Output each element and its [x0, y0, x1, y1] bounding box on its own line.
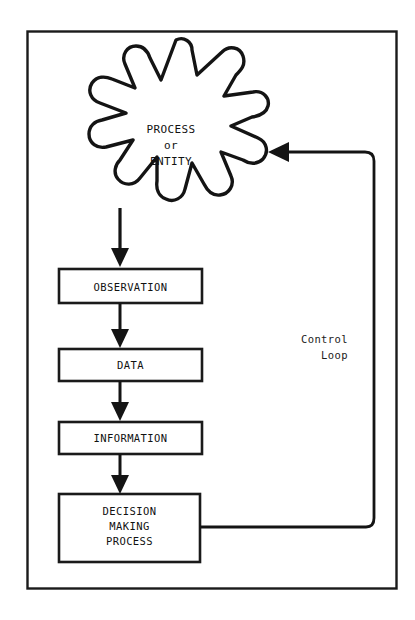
control-loop-arrowhead [268, 142, 289, 162]
arrow-data-to-information-head [111, 402, 129, 421]
box-information[interactable] [59, 422, 202, 454]
box-decision-making-process[interactable] [59, 494, 200, 562]
arrow-information-to-decision-head [111, 475, 129, 494]
control-loop-label: Control Loop [248, 332, 348, 364]
arrow-observation-to-data-head [111, 329, 129, 348]
process-entity-burst-shape [89, 39, 268, 201]
box-observation[interactable] [59, 269, 202, 303]
box-data[interactable] [59, 349, 202, 381]
arrow-burst-to-observation-head [111, 248, 129, 267]
diagram-vector-layer [0, 0, 415, 620]
diagram-canvas: PROCESS or ENTITY OBSERVATION DATA INFOR… [0, 0, 415, 620]
